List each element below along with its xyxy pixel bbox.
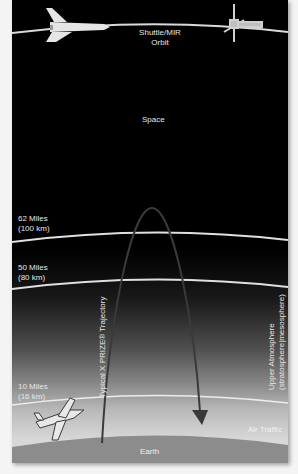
altitude-km: (100 km): [18, 224, 50, 234]
altitude-miles: 50 Miles: [18, 263, 48, 273]
altitude-label-16km: 10 Miles (16 km): [18, 382, 48, 402]
air-traffic-label: Air Traffic: [248, 425, 282, 435]
space-station-icon: [224, 4, 262, 42]
altitude-line-16km: [12, 395, 288, 405]
trajectory-arrow-icon: [102, 208, 208, 443]
space-label: Space: [142, 115, 165, 125]
altitude-km: (80 km): [18, 273, 48, 283]
altitude-label-100km: 62 Miles (100 km): [18, 214, 50, 234]
space-shuttle-icon: [46, 8, 110, 42]
atmosphere-label-line2: (stratosphere|mesosphere): [277, 294, 287, 390]
altitude-line-100km: [12, 232, 288, 242]
atmosphere-label: Upper Atmosphere (stratosphere|mesospher…: [267, 294, 287, 390]
orbit-label-line2: Orbit: [120, 38, 200, 48]
altitude-label-80km: 50 Miles (80 km): [18, 263, 48, 283]
atmosphere-diagram: Shuttle/MIR Orbit Space 62 Miles (100 km…: [12, 0, 288, 463]
orbit-label-line1: Shuttle/MIR: [120, 28, 200, 38]
altitude-miles: 10 Miles: [18, 382, 48, 392]
diagram-graphics: [12, 0, 288, 463]
altitude-km: (16 km): [18, 392, 48, 402]
altitude-line-80km: [12, 279, 288, 289]
atmosphere-label-line1: Upper Atmosphere: [267, 294, 277, 390]
airplane-icon: [34, 398, 84, 440]
diagram-frame: Shuttle/MIR Orbit Space 62 Miles (100 km…: [0, 0, 298, 474]
trajectory-label: Typical X PRIZE® Trajectory: [98, 297, 108, 398]
orbit-label: Shuttle/MIR Orbit: [120, 28, 200, 48]
altitude-miles: 62 Miles: [18, 214, 50, 224]
earth-label: Earth: [140, 447, 159, 457]
